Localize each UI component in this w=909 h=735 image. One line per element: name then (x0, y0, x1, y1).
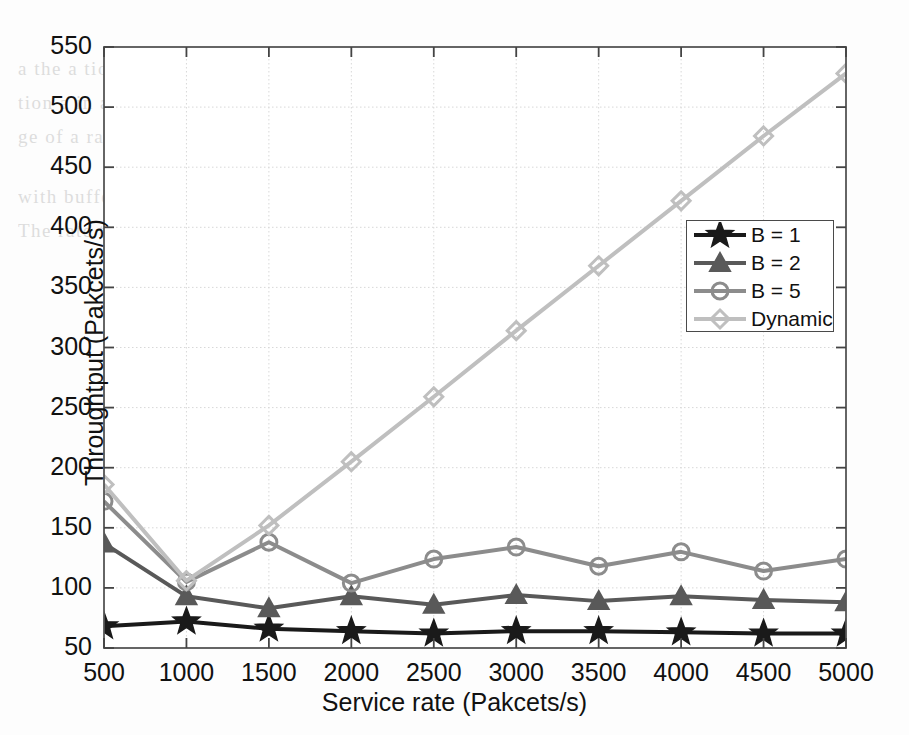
y-tick-label: 450 (12, 151, 92, 180)
y-tick-label: 200 (12, 452, 92, 481)
y-tick-label: 250 (12, 392, 92, 421)
legend-item-3[interactable]: B = 5 (687, 277, 833, 305)
legend-item-4[interactable]: Dynamic (687, 305, 833, 333)
y-tick-label: 150 (12, 512, 92, 541)
legend-marker-circle-icon (692, 278, 748, 304)
y-tick-label: 400 (12, 211, 92, 240)
chart-plot-svg (0, 0, 909, 735)
legend-marker-diamond-icon (692, 306, 748, 332)
chart-legend: B = 1B = 2B = 5Dynamic (686, 220, 834, 332)
y-tick-label: 50 (12, 632, 92, 661)
plot-background (104, 47, 846, 648)
chart-figure: Service rate (Pakcets/s) Throughtput (Pa… (0, 0, 909, 735)
legend-label: Dynamic (751, 307, 833, 331)
legend-label: B = 2 (751, 251, 801, 275)
legend-label: B = 1 (751, 223, 801, 247)
y-tick-label: 550 (12, 31, 92, 60)
x-tick-label: 5000 (796, 658, 896, 687)
x-axis-title: Service rate (Pakcets/s) (0, 688, 909, 717)
y-tick-label: 500 (12, 91, 92, 120)
legend-marker-triangle-icon (692, 250, 748, 276)
legend-label: B = 5 (751, 279, 801, 303)
legend-item-1[interactable]: B = 1 (687, 221, 833, 249)
legend-item-2[interactable]: B = 2 (687, 249, 833, 277)
y-tick-label: 300 (12, 332, 92, 361)
legend-marker-star-icon (692, 222, 748, 248)
y-tick-label: 350 (12, 271, 92, 300)
y-tick-label: 100 (12, 572, 92, 601)
